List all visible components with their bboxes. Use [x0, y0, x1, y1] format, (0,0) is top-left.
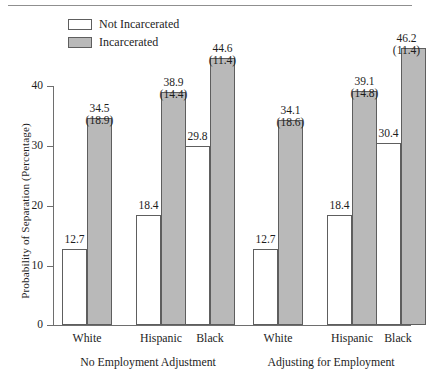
chart-legend: Not Incarcerated Incarcerated: [68, 16, 179, 52]
y-tick-mark-30: [47, 146, 53, 147]
value-text: 34.1: [266, 104, 315, 116]
value-subtext: (18.6): [266, 116, 315, 128]
value-subtext: (18.9): [75, 114, 124, 126]
value-text: 38.9: [149, 76, 198, 88]
y-tick-label-40: 40: [3, 80, 43, 92]
y-tick-label-10: 10: [3, 260, 43, 272]
bar-label-g2-black-not-incarcerated: 30.4: [364, 127, 413, 139]
bar-label-g2-hispanic-not-incarcerated: 18.4: [315, 199, 364, 211]
value-text: 12.7: [255, 233, 275, 245]
value-text: 18.4: [138, 199, 158, 211]
bar-g1-white-incarcerated: [87, 118, 112, 325]
x-category-label-g1-black: Black: [180, 331, 240, 346]
bar-g2-white-not-incarcerated: [253, 249, 278, 325]
x-axis-baseline: [53, 325, 411, 326]
value-subtext: (14.4): [149, 88, 198, 100]
x-category-label-g1-white: White: [57, 331, 117, 346]
y-tick-mark-0: [47, 325, 53, 326]
bar-g2-white-incarcerated: [278, 120, 303, 325]
value-text: 18.4: [329, 199, 349, 211]
bar-label-g2-white-incarcerated: 34.1 (18.6): [266, 104, 315, 129]
bar-g1-black-incarcerated: [210, 58, 235, 325]
bar-g2-black-incarcerated: [401, 48, 426, 325]
bar-label-g2-white-not-incarcerated: 12.7: [241, 233, 290, 245]
legend-item-incarcerated: Incarcerated: [68, 34, 179, 50]
value-text: 44.6: [198, 42, 247, 54]
value-subtext: (14.8): [340, 87, 389, 99]
legend-label-incarcerated: Incarcerated: [99, 35, 158, 50]
value-text: 34.5: [75, 102, 124, 114]
bar-g2-hispanic-not-incarcerated: [327, 215, 352, 325]
bar-g1-white-not-incarcerated: [62, 249, 87, 325]
value-subtext: (11.4): [382, 44, 430, 56]
y-tick-mark-10: [47, 266, 53, 267]
bar-label-g2-hispanic-incarcerated: 39.1 (14.8): [340, 75, 389, 100]
value-text: 39.1: [340, 75, 389, 87]
bar-g1-hispanic-not-incarcerated: [136, 215, 161, 325]
x-group-label-no-employment-adjustment: No Employment Adjustment: [48, 355, 248, 370]
top-divider-rule: [8, 5, 412, 6]
y-tick-mark-40: [47, 86, 53, 87]
x-group-label-adjusting-for-employment: Adjusting for Employment: [236, 355, 426, 370]
y-tick-label-20: 20: [3, 200, 43, 212]
bar-label-g1-white-incarcerated: 34.5 (18.9): [75, 102, 124, 127]
bar-g2-black-not-incarcerated: [376, 143, 401, 325]
x-category-label-g2-black: Black: [368, 331, 428, 346]
y-tick-label-30: 30: [3, 140, 43, 152]
x-category-label-g2-white: White: [248, 331, 308, 346]
bar-label-g2-black-incarcerated: 46.2 (11.4): [382, 32, 430, 57]
legend-item-not-incarcerated: Not Incarcerated: [68, 16, 179, 32]
value-text: 29.8: [187, 130, 207, 142]
bar-label-g1-hispanic-incarcerated: 38.9 (14.4): [149, 76, 198, 101]
y-tick-mark-20: [47, 206, 53, 207]
bar-label-g1-hispanic-not-incarcerated: 18.4: [124, 199, 173, 211]
y-tick-label-0: 0: [3, 319, 43, 331]
bar-label-g1-black-not-incarcerated: 29.8: [173, 130, 222, 142]
value-text: 46.2: [382, 32, 430, 44]
legend-label-not-incarcerated: Not Incarcerated: [99, 17, 179, 32]
bar-label-g1-black-incarcerated: 44.6 (11.4): [198, 42, 247, 67]
value-text: 12.7: [64, 233, 84, 245]
y-axis-spine: [53, 86, 54, 326]
legend-swatch-open-icon: [68, 19, 92, 30]
value-subtext: (11.4): [198, 54, 247, 66]
legend-swatch-filled-icon: [68, 37, 92, 48]
bar-g1-black-not-incarcerated: [185, 146, 210, 325]
value-text: 30.4: [378, 127, 398, 139]
bar-label-g1-white-not-incarcerated: 12.7: [50, 233, 99, 245]
